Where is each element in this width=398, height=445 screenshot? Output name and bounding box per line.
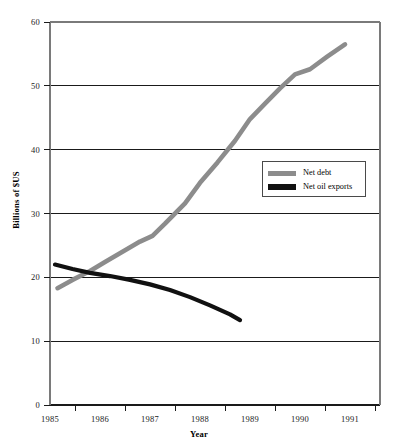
axis-ticks [44, 22, 375, 411]
x-tick-label-1987: 1987 [130, 414, 170, 424]
x-tick-label-1985: 1985 [30, 414, 70, 424]
legend-entry-net-oil-exports: Net oil exports [268, 180, 360, 194]
y-tick-label-50: 50 [18, 81, 40, 91]
chart-legend: Net debt Net oil exports [262, 161, 366, 197]
legend-swatch-net-debt [268, 171, 296, 176]
legend-swatch-net-oil-exports [268, 184, 296, 190]
y-axis-title: Billions of $US [11, 150, 21, 250]
gridlines [50, 86, 380, 341]
y-tick-label-20: 20 [18, 272, 40, 282]
x-tick-label-1989: 1989 [230, 414, 270, 424]
series-line-net-oil-exports [55, 265, 240, 321]
legend-label-net-oil-exports: Net oil exports [303, 183, 352, 191]
y-tick-label-40: 40 [18, 145, 40, 155]
legend-entry-net-debt: Net debt [268, 166, 360, 180]
x-tick-label-1991: 1991 [330, 414, 370, 424]
y-tick-label-0: 0 [18, 400, 40, 410]
x-axis-title: Year [0, 429, 398, 439]
chart-figure: 0102030405060 19851986198719881989199019… [0, 0, 398, 445]
x-tick-label-1986: 1986 [80, 414, 120, 424]
y-tick-label-30: 30 [18, 209, 40, 219]
x-tick-label-1990: 1990 [280, 414, 320, 424]
legend-label-net-debt: Net debt [303, 169, 331, 177]
y-tick-label-60: 60 [18, 17, 40, 27]
plot-area [0, 0, 398, 445]
y-tick-label-10: 10 [18, 336, 40, 346]
x-tick-label-1988: 1988 [180, 414, 220, 424]
